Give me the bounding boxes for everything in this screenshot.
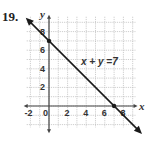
x-tick-label: 2 bbox=[65, 108, 70, 118]
y-tick-label: 4 bbox=[40, 64, 45, 74]
intercept-point bbox=[112, 104, 116, 108]
y-axis-down-arrow-icon bbox=[47, 129, 51, 133]
y-tick-label: 2 bbox=[40, 82, 45, 92]
x-tick-label: 6 bbox=[102, 108, 107, 118]
tick-labels: -2024682468 bbox=[24, 27, 125, 118]
y-axis-up-arrow-icon bbox=[47, 15, 51, 19]
equation-label: x + y =7 bbox=[80, 56, 118, 67]
x-tick-label: 0 bbox=[43, 108, 48, 118]
y-axis-label: y bbox=[38, 8, 45, 20]
intercept-point bbox=[47, 39, 51, 43]
x-tick-label: -2 bbox=[24, 108, 32, 118]
x-axis-right-arrow-icon bbox=[134, 104, 138, 108]
x-axis-label: x bbox=[138, 100, 145, 112]
y-tick-label: 6 bbox=[40, 45, 45, 55]
x-tick-label: 4 bbox=[83, 108, 88, 118]
coordinate-graph: -2024682468 x y x + y =7 bbox=[0, 0, 155, 142]
